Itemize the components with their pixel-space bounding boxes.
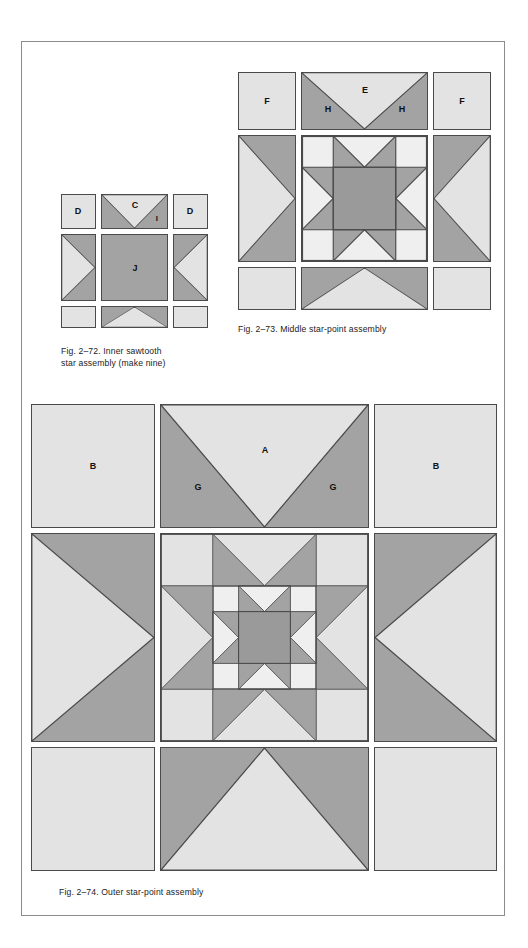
patch-outer-geese-bottom <box>160 747 369 871</box>
patch-middle-geese-left-shape <box>239 136 295 261</box>
patch-middle-geese-left <box>238 135 296 262</box>
caption-fig-2-72: Fig. 2–72. Inner sawtooth star assembly … <box>61 346 236 369</box>
patch-flying-geese-bottom <box>101 306 168 328</box>
patch-CI-flying-geese-top <box>101 194 168 229</box>
patch-B-left-shape <box>32 405 154 527</box>
nested-inner-star-block <box>301 135 428 262</box>
patch-B-bottom-left <box>31 747 155 871</box>
patch-EH-shape <box>302 73 427 129</box>
patch-CI-shape <box>102 195 167 228</box>
middle-star-diagram: F E H H F <box>238 72 491 322</box>
patch-AG-flying-geese-top <box>160 404 369 528</box>
patch-B-right <box>374 404 497 528</box>
patch-B-right-shape <box>375 405 496 527</box>
patch-outer-geese-bottom-shape <box>161 748 368 870</box>
nested-middle-star-shape <box>161 534 368 741</box>
patch-flying-geese-bottom-shape <box>102 307 167 327</box>
caption-fig-2-73: Fig. 2–73. Middle star-point assembly <box>238 324 500 336</box>
patch-F-right-shape <box>434 73 490 129</box>
patch-F-left-shape <box>239 73 295 129</box>
figure-middle-star-point: F E H H F <box>238 72 500 362</box>
page-frame: D C I D <box>21 41 505 916</box>
patch-F-bottom-right-shape <box>434 268 490 309</box>
patch-outer-geese-left-shape <box>32 534 154 741</box>
patch-outer-geese-left <box>31 533 155 742</box>
patch-outer-geese-right-shape <box>375 534 496 741</box>
patch-F-bottom-right <box>433 267 491 310</box>
figure-inner-sawtooth-star: D C I D <box>61 194 236 394</box>
patch-D-bottom-right <box>173 306 208 328</box>
patch-B-bottom-right <box>374 747 497 871</box>
patch-F-bottom-left-shape <box>239 268 295 309</box>
patch-B-left <box>31 404 155 528</box>
patch-B-bottom-right-shape <box>375 748 496 870</box>
outer-star-diagram: B A G G B <box>31 404 497 889</box>
patch-D-left <box>61 194 96 229</box>
caption-fig-2-74: Fig. 2–74. Outer star-point assembly <box>59 887 479 899</box>
patch-middle-geese-bottom <box>301 267 428 310</box>
patch-F-right <box>433 72 491 130</box>
patch-middle-geese-right <box>433 135 491 262</box>
inner-star-diagram: D C I D <box>61 194 208 328</box>
patch-F-bottom-left <box>238 267 296 310</box>
patch-flying-geese-left-shape <box>62 235 95 300</box>
patch-D-right <box>173 194 208 229</box>
patch-flying-geese-right-shape <box>174 235 207 300</box>
patch-middle-geese-right-shape <box>434 136 490 261</box>
patch-J-shape <box>102 235 167 300</box>
nested-inner-star-shape <box>302 136 427 261</box>
nested-middle-star-block <box>160 533 369 742</box>
figure-outer-star-point: B A G G B <box>31 404 497 914</box>
patch-J-center-square <box>101 234 168 301</box>
patch-flying-geese-left <box>61 234 96 301</box>
patch-D-right-shape <box>174 195 207 228</box>
patch-B-bottom-left-shape <box>32 748 154 870</box>
patch-D-bottom-left <box>61 306 96 328</box>
patch-flying-geese-right <box>173 234 208 301</box>
patch-D-bottom-left-shape <box>62 307 95 327</box>
patch-AG-shape <box>161 405 368 527</box>
patch-F-left <box>238 72 296 130</box>
patch-outer-geese-right <box>374 533 497 742</box>
patch-EH-flying-geese-top <box>301 72 428 130</box>
patch-D-bottom-right-shape <box>174 307 207 327</box>
patch-middle-geese-bottom-shape <box>302 268 427 309</box>
patch-D-left-shape <box>62 195 95 228</box>
